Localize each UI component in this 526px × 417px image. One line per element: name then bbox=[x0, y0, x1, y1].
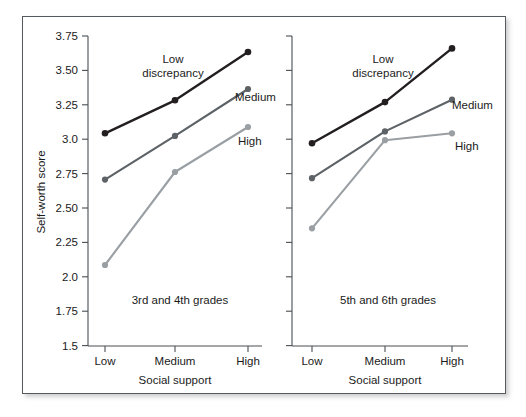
left-point-lowdisc-medium bbox=[172, 97, 179, 104]
y-tick-label-3-50: 3.50 bbox=[56, 64, 78, 76]
right-label-low-discrepancy-line2: discrepancy bbox=[352, 67, 414, 79]
left-panel-y-ticks bbox=[82, 36, 88, 346]
left-x-tick-label-high: High bbox=[236, 355, 260, 367]
left-x-tick-label-low: Low bbox=[94, 355, 116, 367]
right-x-tick-label-low: Low bbox=[301, 355, 323, 367]
right-series-medium-line bbox=[312, 100, 452, 179]
y-tick-label-2-0: 2.0 bbox=[62, 271, 78, 283]
figure-container: 3.75 3.50 3.25 3.0 2.75 2.50 2.25 2.0 1.… bbox=[0, 0, 526, 417]
left-x-axis-title: Social support bbox=[139, 374, 213, 386]
right-x-axis-title: Social support bbox=[349, 374, 423, 386]
right-label-medium: Medium bbox=[452, 99, 493, 111]
right-series-high-line bbox=[312, 133, 452, 228]
y-tick-label-3-75: 3.75 bbox=[56, 30, 78, 42]
right-label-high: High bbox=[455, 140, 479, 152]
left-point-high-medium bbox=[172, 169, 178, 175]
left-point-lowdisc-low bbox=[102, 130, 109, 137]
left-label-low-discrepancy-line2: discrepancy bbox=[142, 67, 204, 79]
y-tick-label-3-25: 3.25 bbox=[56, 99, 78, 111]
right-point-medium-low bbox=[309, 175, 315, 181]
left-label-high: High bbox=[238, 135, 262, 147]
left-panel-x-ticks bbox=[105, 346, 248, 352]
right-label-low-discrepancy-line1: Low bbox=[372, 53, 394, 65]
panel-5th-6th-grades: Low Medium High Social support Low discr… bbox=[286, 36, 493, 386]
panel-3rd-4th-grades: 3.75 3.50 3.25 3.0 2.75 2.50 2.25 2.0 1.… bbox=[35, 30, 276, 386]
left-x-tick-label-medium: Medium bbox=[155, 355, 196, 367]
left-point-high-low bbox=[102, 262, 108, 268]
y-tick-label-2-25: 2.25 bbox=[56, 236, 78, 248]
left-point-high-high bbox=[245, 124, 251, 130]
left-point-medium-medium bbox=[172, 133, 178, 139]
left-label-low-discrepancy-line1: Low bbox=[162, 53, 184, 65]
left-point-lowdisc-high bbox=[245, 49, 252, 56]
y-tick-label-3-0: 3.0 bbox=[62, 133, 78, 145]
right-point-high-medium bbox=[382, 137, 388, 143]
right-panel-note: 5th and 6th grades bbox=[340, 294, 436, 306]
right-point-high-low bbox=[309, 225, 315, 231]
right-point-lowdisc-low bbox=[309, 140, 316, 147]
right-point-lowdisc-high bbox=[449, 45, 456, 52]
left-point-medium-low bbox=[102, 177, 108, 183]
right-x-tick-label-high: High bbox=[440, 355, 464, 367]
left-panel-note: 3rd and 4th grades bbox=[132, 294, 229, 306]
left-label-medium: Medium bbox=[235, 91, 276, 103]
right-point-high-high bbox=[449, 130, 455, 136]
y-tick-label-2-50: 2.50 bbox=[56, 202, 78, 214]
y-axis-title: Self-worth score bbox=[35, 150, 47, 233]
chart-svg: 3.75 3.50 3.25 3.0 2.75 2.50 2.25 2.0 1.… bbox=[0, 0, 526, 417]
right-point-medium-medium bbox=[382, 128, 388, 134]
right-x-tick-label-medium: Medium bbox=[365, 355, 406, 367]
right-panel-x-ticks bbox=[312, 346, 452, 352]
left-series-high-line bbox=[105, 127, 248, 265]
y-tick-label-1-5: 1.5 bbox=[62, 340, 78, 352]
right-point-lowdisc-medium bbox=[382, 99, 389, 106]
y-tick-label-2-75: 2.75 bbox=[56, 168, 78, 180]
right-panel-y-ticks bbox=[286, 36, 292, 346]
y-tick-label-1-75: 1.75 bbox=[56, 305, 78, 317]
